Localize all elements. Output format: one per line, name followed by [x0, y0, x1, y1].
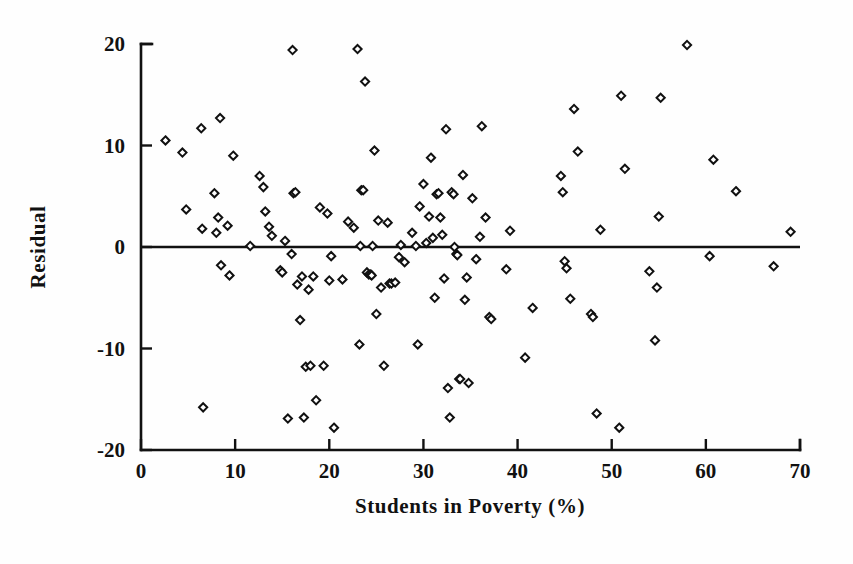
data-point	[436, 213, 444, 221]
data-point	[621, 165, 629, 173]
data-point	[261, 207, 269, 215]
data-point	[574, 147, 582, 155]
data-point	[596, 226, 604, 234]
data-point	[246, 242, 254, 250]
data-point	[384, 219, 392, 227]
data-point	[225, 271, 233, 279]
data-point	[408, 229, 416, 237]
data-point	[374, 217, 382, 225]
data-point	[265, 223, 273, 231]
data-point	[355, 340, 363, 348]
data-point	[683, 41, 691, 49]
data-point	[320, 362, 328, 370]
data-point	[770, 262, 778, 270]
data-point	[709, 156, 717, 164]
data-point	[368, 242, 376, 250]
data-point	[370, 146, 378, 154]
x-tick-label-20: 20	[319, 459, 340, 483]
data-point	[304, 286, 312, 294]
x-tick-label-group: 010203040506070	[136, 459, 811, 483]
data-point	[214, 213, 222, 221]
data-point	[521, 354, 529, 362]
y-axis-title: Residual	[26, 206, 50, 289]
data-point	[651, 336, 659, 344]
data-point	[197, 124, 205, 132]
data-point	[380, 362, 388, 370]
data-point	[706, 252, 714, 260]
data-point	[178, 149, 186, 157]
data-point	[427, 154, 435, 162]
data-point	[372, 310, 380, 318]
data-point	[425, 212, 433, 220]
data-point	[655, 212, 663, 220]
data-point	[309, 272, 317, 280]
data-point	[284, 414, 292, 422]
data-point	[344, 218, 352, 226]
y-tick-label-10: 10	[104, 134, 125, 158]
x-tick-label-0: 0	[136, 459, 147, 483]
scatter-plot-figure: -20-1001020 010203040506070 Students in …	[0, 0, 853, 564]
data-point	[182, 205, 190, 213]
data-point	[281, 237, 289, 245]
data-point	[325, 276, 333, 284]
y-tick-label-group: -20-1001020	[97, 32, 125, 462]
data-point	[502, 265, 510, 273]
data-point	[288, 250, 296, 258]
data-point	[414, 340, 422, 348]
data-point	[316, 203, 324, 211]
data-point	[481, 213, 489, 221]
data-point	[444, 384, 452, 392]
x-tick-label-30: 30	[413, 459, 434, 483]
x-tick-label-40: 40	[507, 459, 528, 483]
data-point	[224, 222, 232, 230]
data-point	[312, 396, 320, 404]
data-point	[210, 189, 218, 197]
data-point	[356, 242, 364, 250]
data-point	[296, 316, 304, 324]
y-tick-label--10: -10	[97, 337, 125, 361]
data-point	[559, 188, 567, 196]
data-point	[645, 267, 653, 275]
data-point	[199, 403, 207, 411]
residual-scatter-chart: -20-1001020 010203040506070 Students in …	[0, 0, 853, 564]
data-point	[506, 227, 514, 235]
data-point	[431, 294, 439, 302]
data-point	[438, 231, 446, 239]
x-tick-label-60: 60	[695, 459, 716, 483]
data-point	[256, 172, 264, 180]
data-point	[161, 136, 169, 144]
data-point	[229, 152, 237, 160]
data-point	[468, 194, 476, 202]
data-point	[293, 280, 301, 288]
data-point	[476, 233, 484, 241]
data-point	[529, 304, 537, 312]
data-point	[217, 261, 225, 269]
data-point	[338, 275, 346, 283]
data-point	[259, 183, 267, 191]
data-point	[440, 274, 448, 282]
y-tick-label-20: 20	[104, 32, 125, 56]
x-tick-label-50: 50	[601, 459, 622, 483]
data-point	[268, 232, 276, 240]
data-point	[615, 424, 623, 432]
data-point	[557, 172, 565, 180]
data-point	[361, 77, 369, 85]
data-point	[330, 424, 338, 432]
data-point	[412, 242, 420, 250]
data-point	[416, 202, 424, 210]
data-point	[212, 229, 220, 237]
data-point	[327, 252, 335, 260]
data-point	[353, 45, 361, 53]
data-point	[617, 92, 625, 100]
data-point	[463, 273, 471, 281]
data-point	[298, 272, 306, 280]
data-point	[377, 284, 385, 292]
data-point	[732, 187, 740, 195]
data-point	[566, 295, 574, 303]
x-tick-label-70: 70	[790, 459, 811, 483]
data-point	[478, 122, 486, 130]
y-tick-label--20: -20	[97, 438, 125, 462]
data-point	[300, 413, 308, 421]
x-axis-title: Students in Poverty (%)	[355, 494, 585, 518]
x-axis-ticks	[141, 439, 800, 450]
